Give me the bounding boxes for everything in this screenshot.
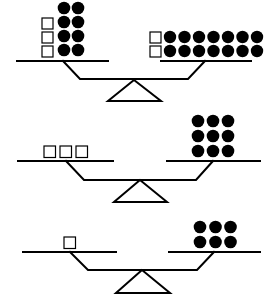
dot-icon (164, 31, 176, 43)
dot-icon (207, 145, 220, 158)
dot-icon (72, 44, 85, 57)
balance-1-left-dots (58, 2, 85, 57)
dot-icon (194, 236, 207, 249)
dot-icon (58, 30, 71, 43)
dot-icon (222, 130, 235, 143)
dot-icon (207, 45, 219, 57)
dot-icon (72, 2, 85, 15)
dot-icon (178, 45, 190, 57)
dot-icon (207, 130, 220, 143)
square-icon (64, 237, 76, 249)
balance-2-right-dots (192, 115, 235, 158)
dot-icon (58, 2, 71, 15)
dot-icon (251, 31, 263, 43)
dot-icon (224, 221, 237, 234)
dot-icon (193, 45, 205, 57)
dot-icon (251, 45, 263, 57)
balance-3-beam (70, 252, 214, 270)
balance-3-right-dots (194, 221, 237, 249)
dot-icon (222, 31, 234, 43)
dot-icon (207, 115, 220, 128)
dot-icon (224, 236, 237, 249)
balance-2-beam (66, 161, 213, 180)
dot-icon (194, 221, 207, 234)
dot-icon (222, 115, 235, 128)
balance-1-right-squares (150, 32, 161, 57)
dot-icon (209, 236, 222, 249)
balance-1-left-squares (42, 18, 53, 57)
dot-icon (72, 16, 85, 29)
dot-icon (178, 31, 190, 43)
square-icon (150, 46, 161, 57)
dot-icon (192, 145, 205, 158)
dot-icon (209, 221, 222, 234)
square-icon (150, 32, 161, 43)
balance-3 (23, 221, 260, 293)
dot-icon (236, 45, 248, 57)
balance-scales-diagram (0, 0, 280, 305)
dot-icon (193, 31, 205, 43)
dot-icon (164, 45, 176, 57)
dot-icon (222, 145, 235, 158)
square-icon (44, 146, 56, 158)
square-icon (60, 146, 72, 158)
balance-3-fulcrum-icon (116, 270, 170, 293)
balance-1-right-dots (164, 31, 263, 57)
dot-icon (236, 31, 248, 43)
balance-1-beam (63, 61, 205, 79)
dot-icon (58, 16, 71, 29)
dot-icon (58, 44, 71, 57)
balance-3-left-squares (64, 237, 76, 249)
dot-icon (72, 30, 85, 43)
balance-2-left-squares (44, 146, 88, 158)
dot-icon (207, 31, 219, 43)
square-icon (42, 32, 53, 43)
balance-1 (17, 2, 263, 101)
square-icon (42, 18, 53, 29)
dot-icon (222, 45, 234, 57)
balance-2 (18, 115, 260, 202)
square-icon (42, 46, 53, 57)
dot-icon (192, 130, 205, 143)
dot-icon (192, 115, 205, 128)
balance-2-fulcrum-icon (114, 180, 167, 202)
balance-1-fulcrum-icon (108, 80, 161, 101)
square-icon (76, 146, 88, 158)
